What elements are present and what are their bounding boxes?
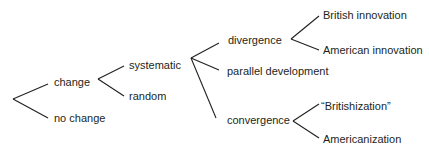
node-americanization: Americanization [323,133,401,145]
edge-root-change [13,84,48,99]
node-change: change [54,76,90,88]
node-divergence: divergence [228,34,282,46]
node-no-change: no change [54,112,105,124]
edge-root-no-change [13,99,48,118]
node-random: random [129,90,166,102]
node-british-innovation: British innovation [323,9,407,21]
edge-divergence-american [291,39,319,50]
node-britishization: “Britishization” [321,100,391,112]
edge-convergence-americanization [293,121,319,138]
node-convergence: convergence [227,114,290,126]
node-american-innovation: American innovation [323,44,423,56]
edge-systematic-divergence [191,43,219,58]
edge-change-random [98,79,124,96]
edge-divergence-british [291,16,319,39]
node-systematic: systematic [129,59,181,71]
tree-diagram: change no change systematic random diver… [0,0,429,151]
edge-change-systematic [98,66,124,79]
node-parallel-development: parallel development [227,65,329,77]
edge-convergence-britishization [293,104,319,121]
